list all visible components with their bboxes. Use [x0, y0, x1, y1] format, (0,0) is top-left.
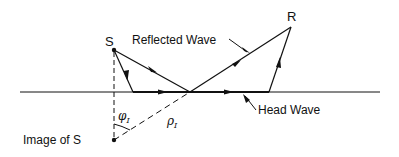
distance-subscript: I — [174, 121, 177, 130]
receiver-label: R — [287, 11, 296, 23]
distance-label: ρI — [167, 115, 177, 129]
reflected-wave-label: Reflected Wave — [132, 34, 216, 46]
head-wave-arrow-1 — [158, 90, 168, 95]
reflected-wave-leader-arrow — [242, 47, 250, 53]
distance-symbol: ρ — [167, 114, 174, 128]
image-source-point — [112, 138, 116, 142]
critical-ray-arrow — [124, 70, 130, 81]
source-label: S — [105, 36, 114, 48]
angle-label: φI — [118, 110, 130, 124]
head-wave-arrow-2 — [224, 90, 234, 95]
angle-subscript: I — [126, 116, 129, 125]
reflected-ray-arrow — [232, 60, 241, 67]
image-of-source-label: Image of S — [23, 134, 81, 146]
head-wave-label: Head Wave — [258, 104, 320, 116]
